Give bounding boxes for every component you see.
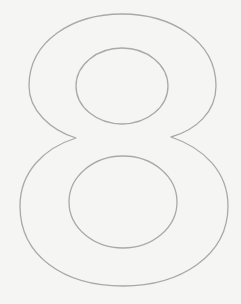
upper-counter xyxy=(76,48,168,124)
outer-contour xyxy=(20,14,228,286)
outlined-digit-eight-icon xyxy=(0,0,241,304)
lower-counter xyxy=(69,156,177,248)
canvas: 8 xyxy=(0,0,241,304)
